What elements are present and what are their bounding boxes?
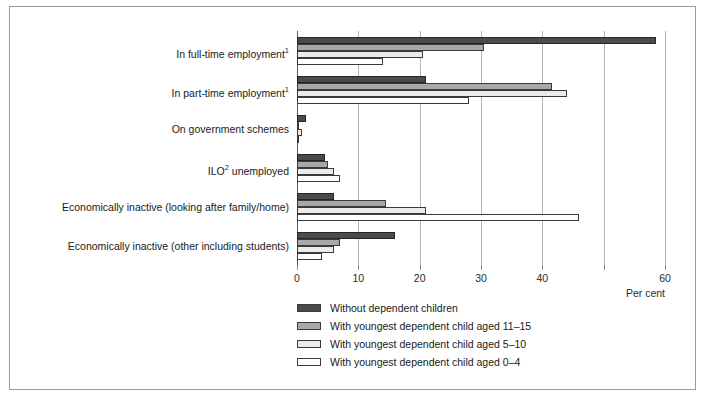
bar [297,76,426,83]
x-tick-label-60: 60 [659,272,671,284]
gridline-0 [297,31,298,265]
category-label: On government schemes [172,123,289,135]
legend-item: With youngest dependent child aged 11–15 [297,317,531,335]
x-tick-30 [481,265,482,270]
legend-swatch-icon [297,322,321,330]
category-label: Economically inactive (looking after fam… [62,201,289,213]
gridline-20 [420,31,421,265]
x-tick-label-30: 30 [475,272,487,284]
gridline-40 [542,31,543,265]
gridline-60 [665,31,666,265]
x-tick-40 [542,265,543,270]
legend-label: With youngest dependent child aged 5–10 [330,338,526,350]
x-axis-unit-label: Per cent [626,287,665,299]
legend-label: With youngest dependent child aged 11–15 [330,320,531,332]
x-tick-0 [297,265,298,270]
legend-swatch-icon [297,304,321,312]
bar [297,161,328,168]
bar [297,193,334,200]
x-tick-50 [604,265,605,270]
bar [297,83,552,90]
bar [297,200,386,207]
gridline-10 [358,31,359,265]
bar [297,129,302,136]
bar-group [297,232,665,260]
chart-legend: Without dependent childrenWith youngest … [297,299,531,371]
legend-label: With youngest dependent child aged 0–4 [330,356,520,368]
gridline-50 [604,31,605,265]
chart-frame: Per cent 01020304060In full-time employm… [9,6,696,390]
x-tick-label-40: 40 [536,272,548,284]
bar [297,136,299,143]
legend-item: Without dependent children [297,299,531,317]
bar-group [297,193,665,221]
bar [297,246,334,253]
category-label: ILO2 unemployed [208,162,289,177]
plot-area: Per cent 01020304060In full-time employm… [297,31,665,265]
legend-label: Without dependent children [330,302,458,314]
bar-group [297,76,665,104]
legend-swatch-icon [297,340,321,348]
bar [297,44,484,51]
bar [297,122,299,129]
bar [297,154,325,161]
bar-group [297,154,665,182]
bar [297,207,426,214]
category-label: In full-time employment1 [176,45,289,60]
bar [297,97,469,104]
x-tick-label-10: 10 [352,272,364,284]
bar [297,253,322,260]
bar [297,175,340,182]
category-label: In part-time employment1 [172,84,289,99]
bar [297,239,340,246]
x-tick-10 [358,265,359,270]
gridline-30 [481,31,482,265]
legend-item: With youngest dependent child aged 0–4 [297,353,531,371]
bar [297,37,656,44]
x-tick-60 [665,265,666,270]
bar-group [297,115,665,143]
bar [297,232,395,239]
bar [297,214,579,221]
legend-item: With youngest dependent child aged 5–10 [297,335,531,353]
bar [297,168,334,175]
x-tick-20 [420,265,421,270]
bar [297,58,383,65]
x-tick-label-20: 20 [414,272,426,284]
x-tick-label-0: 0 [294,272,300,284]
bar [297,90,567,97]
bar-group [297,37,665,65]
bar [297,51,423,58]
category-label: Economically inactive (other including s… [68,240,289,252]
bar [297,115,306,122]
legend-swatch-icon [297,358,321,366]
